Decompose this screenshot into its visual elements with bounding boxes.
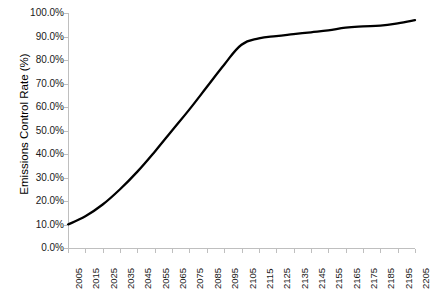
x-axis-tick-mark — [311, 249, 312, 253]
x-axis-tick-mark — [294, 249, 295, 253]
x-axis-tick-mark — [120, 249, 121, 253]
y-axis-tick-mark — [64, 131, 68, 132]
y-axis-tick-mark — [64, 225, 68, 226]
x-axis-tick-mark — [137, 249, 138, 253]
y-axis-tick-mark — [64, 178, 68, 179]
x-axis-tick-mark — [415, 249, 416, 253]
x-axis-tick-mark — [172, 249, 173, 253]
x-axis-tick-mark — [155, 249, 156, 253]
y-axis-tick-mark — [64, 60, 68, 61]
x-axis-tick-mark — [328, 249, 329, 253]
x-axis-tick-mark — [224, 249, 225, 253]
x-axis-tick-mark — [242, 249, 243, 253]
y-axis-tick-mark — [64, 13, 68, 14]
y-axis-tick-mark — [64, 154, 68, 155]
y-axis-tick-mark — [64, 201, 68, 202]
x-axis-tick-mark — [68, 249, 69, 253]
x-axis-tick-label: 2205 — [420, 277, 434, 289]
y-axis-tick-mark — [64, 107, 68, 108]
x-axis-tick-mark — [259, 249, 260, 253]
x-axis-tick-mark — [346, 249, 347, 253]
x-axis-tick-mark — [207, 249, 208, 253]
x-axis-tick-mark — [276, 249, 277, 253]
x-axis-tick-mark — [398, 249, 399, 253]
x-axis-tick-mark — [103, 249, 104, 253]
x-axis-tick-mark — [189, 249, 190, 253]
x-axis-tick-mark — [85, 249, 86, 253]
y-axis-tick-mark — [64, 37, 68, 38]
series-line-emissions-control-rate — [68, 20, 415, 224]
y-axis-tick-mark — [64, 84, 68, 85]
x-axis-tick-mark — [363, 249, 364, 253]
x-axis-tick-mark — [380, 249, 381, 253]
